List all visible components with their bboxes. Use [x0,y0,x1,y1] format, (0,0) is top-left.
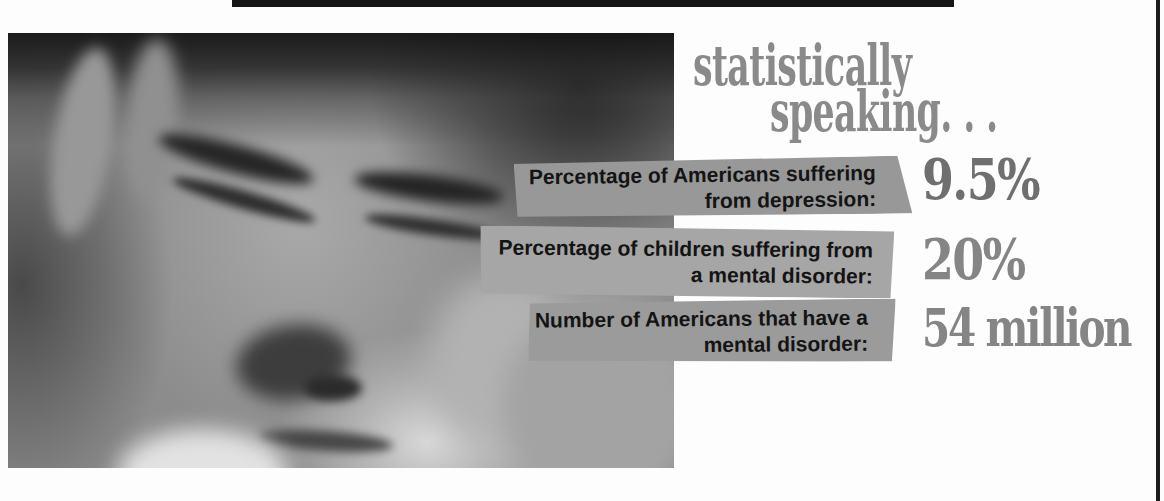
photo-shading [353,166,505,210]
photo-shading [39,44,126,241]
stat-banner-total: Number of Americans that have a mental d… [528,298,897,364]
stat-banner-children: Percentage of children suffering from a … [480,225,895,298]
stat-value-depression: 9.5% [922,151,1039,207]
top-rule [232,0,954,7]
page-edge-line [1156,0,1160,501]
photo-shading [120,37,183,200]
photo-shading [257,426,393,455]
stat-label: a mental disorder: [480,260,873,289]
stat-label: from depression: [514,186,876,216]
stat-value-children: 20% [922,231,1025,287]
magazine-infographic-page: statistically speaking. . . Percentage o… [0,0,1164,501]
stat-label: Number of Americans that have a [528,305,868,334]
stat-value-total: 54 million [922,302,1130,354]
stat-banner-depression: Percentage of Americans suffering from d… [514,156,913,219]
stat-label: mental disorder: [528,331,868,360]
photo-shading [304,375,362,401]
stat-label: Percentage of children suffering from [480,234,873,263]
page-title-line2: speaking. . . [770,83,998,139]
photo-shading [364,210,501,245]
